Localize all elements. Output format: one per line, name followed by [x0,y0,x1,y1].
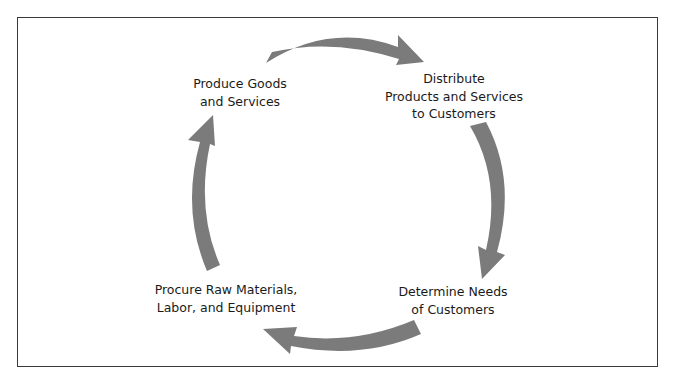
node-determine-line-2: of Customers [398,301,507,319]
node-determine-needs-of-customers: Determine Needs of Customers [398,283,507,318]
node-distribute-line-2: Products and Services [385,88,523,106]
node-distribute-products-and-services: Distribute Products and Services to Cust… [385,70,523,123]
arrow-determine-to-procure-icon [263,320,421,354]
node-procure-line-1: Procure Raw Materials, [155,281,298,299]
node-distribute-line-3: to Customers [385,105,523,123]
arrow-distribute-to-determine-icon [470,122,505,279]
node-produce-line-2: and Services [193,93,287,111]
node-determine-line-1: Determine Needs [398,283,507,301]
node-produce-line-1: Produce Goods [193,75,287,93]
node-procure-line-2: Labor, and Equipment [155,299,298,317]
cycle-arrows [0,0,679,391]
arrow-produce-to-distribute-icon [266,35,424,65]
node-produce-goods-and-services: Produce Goods and Services [193,75,287,110]
arrow-procure-to-produce-icon [188,115,220,271]
node-procure-raw-materials: Procure Raw Materials, Labor, and Equipm… [155,281,298,316]
node-distribute-line-1: Distribute [385,70,523,88]
